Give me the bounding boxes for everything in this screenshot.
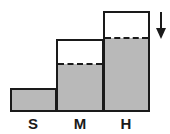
bar-h	[103, 11, 150, 112]
label-m: M	[65, 115, 95, 132]
bar-s-fill	[12, 90, 55, 110]
bar-h-level-line	[105, 37, 148, 39]
bar-s	[10, 88, 57, 112]
bar-m-level-line	[58, 63, 102, 65]
label-s: S	[18, 115, 48, 132]
bar-h-fill	[105, 38, 148, 110]
bar-m-fill	[58, 64, 102, 110]
arrow-down-icon	[155, 12, 167, 40]
label-h: H	[111, 115, 141, 132]
bar-m	[56, 39, 104, 112]
